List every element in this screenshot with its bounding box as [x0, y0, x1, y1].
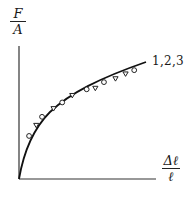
circle-marker	[60, 100, 65, 105]
triangle-marker	[123, 72, 128, 76]
plot-area	[0, 0, 188, 201]
circle-marker	[27, 134, 32, 139]
data-markers	[27, 68, 137, 139]
circle-marker	[40, 114, 45, 119]
triangle-marker	[70, 93, 75, 97]
circle-marker	[132, 68, 137, 73]
triangle-marker	[113, 77, 118, 81]
circle-marker	[102, 80, 107, 85]
circle-marker	[84, 87, 89, 92]
fit-curve	[19, 62, 146, 179]
triangle-marker	[93, 86, 98, 90]
